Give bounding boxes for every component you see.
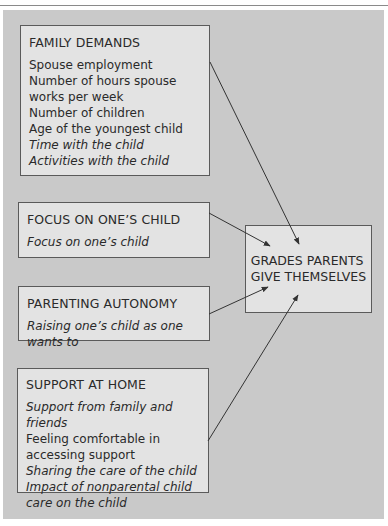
focus-list: Focus on one’s child [27, 234, 201, 250]
list-item: Impact of nonparental child care on the … [26, 479, 200, 511]
family-demands-box: FAMILY DEMANDS Spouse employment Number … [20, 25, 210, 176]
top-rule [0, 5, 388, 6]
support-title: SUPPORT AT HOME [26, 377, 200, 393]
family-demands-title: FAMILY DEMANDS [29, 35, 201, 51]
autonomy-title: PARENTING AUTONOMY [27, 296, 201, 312]
focus-title: FOCUS ON ONE’S CHILD [27, 212, 201, 228]
list-item: Raising one’s child as one wants to [27, 318, 201, 350]
outcome-line-1: GRADES PARENTS [251, 253, 366, 269]
outcome-box: GRADES PARENTS GIVE THEMSELVES [245, 225, 372, 313]
support-box: SUPPORT AT HOME Support from family and … [17, 368, 209, 493]
list-item: Focus on one’s child [27, 234, 201, 250]
family-demands-list: Spouse employment Number of hours spouse… [29, 57, 201, 169]
autonomy-box: PARENTING AUTONOMY Raising one’s child a… [18, 286, 210, 341]
list-item: Sharing the care of the child [26, 463, 200, 479]
focus-box: FOCUS ON ONE’S CHILD Focus on one’s chil… [18, 202, 210, 258]
list-item: Activities with the child [29, 153, 201, 169]
outcome-line-2: GIVE THEMSELVES [251, 269, 366, 285]
list-item: Spouse employment [29, 57, 201, 73]
autonomy-list: Raising one’s child as one wants to [27, 318, 201, 350]
list-item: Feeling comfortable in accessing support [26, 431, 200, 463]
list-item: Support from family and friends [26, 399, 200, 431]
list-item: Number of children [29, 105, 201, 121]
list-item: Number of hours spouse works per week [29, 73, 201, 105]
list-item: Time with the child [29, 137, 201, 153]
outcome-label: GRADES PARENTS GIVE THEMSELVES [251, 253, 366, 285]
list-item: Age of the youngest child [29, 121, 201, 137]
support-list: Support from family and friends Feeling … [26, 399, 200, 511]
